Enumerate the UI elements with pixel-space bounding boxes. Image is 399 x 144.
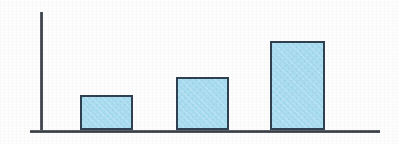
bar-category-1	[80, 95, 133, 130]
bar-category-2	[176, 77, 229, 130]
bar-category-3	[270, 41, 325, 130]
plot-area	[0, 0, 399, 144]
y-axis-line	[40, 12, 43, 132]
x-axis-baseline	[30, 130, 380, 133]
bar-chart-figure	[0, 0, 399, 144]
